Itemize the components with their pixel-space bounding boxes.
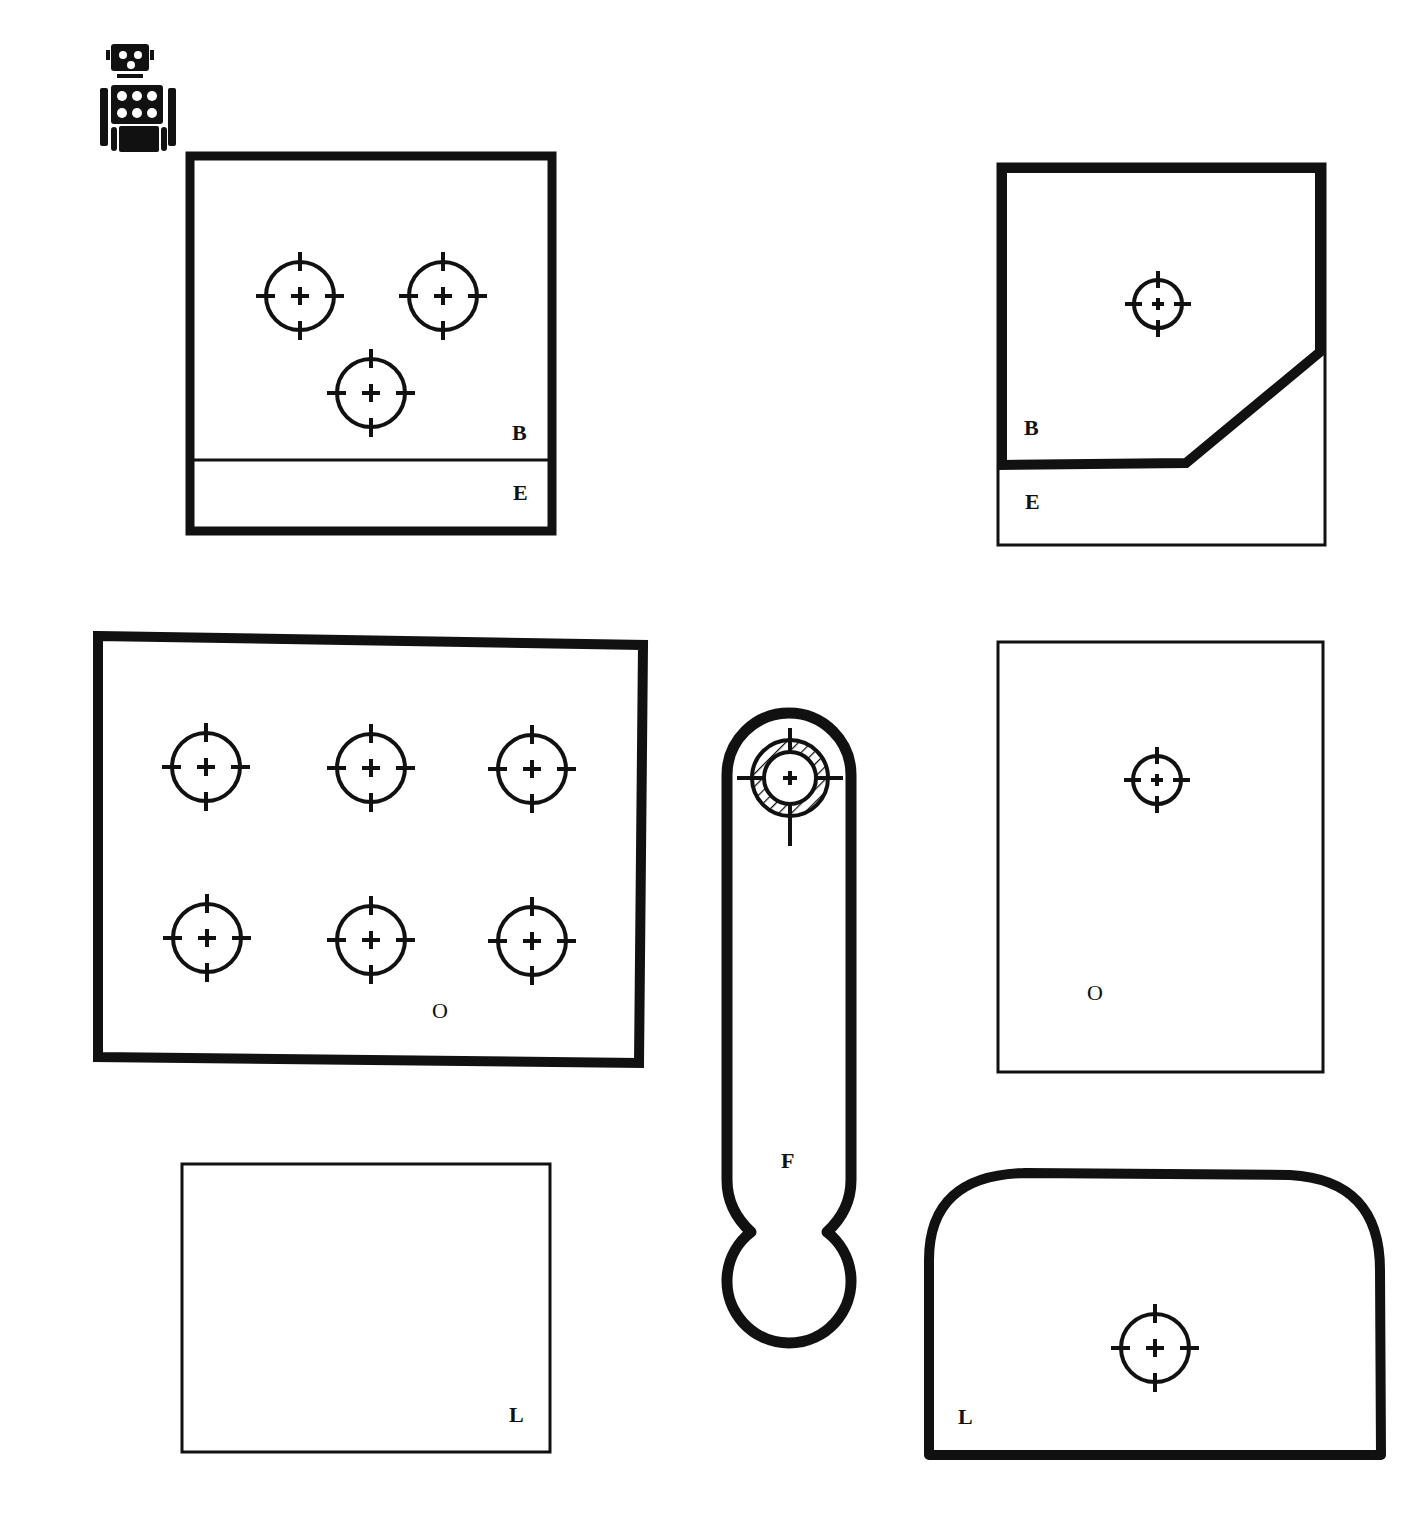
crosshair-icon — [488, 725, 576, 813]
crosshair-icon — [163, 894, 251, 982]
crosshair-icon — [1124, 747, 1190, 813]
part-label-l: L — [509, 1404, 524, 1426]
part-label-f: F — [781, 1150, 794, 1172]
crosshair-icon — [399, 252, 487, 340]
part-rounded-top-plate — [929, 1173, 1381, 1455]
drawing-canvas — [0, 0, 1418, 1527]
part-connecting-rod — [727, 713, 851, 1343]
part-label-b: B — [512, 422, 527, 444]
part-label-e: E — [1025, 491, 1040, 513]
crosshair-icon — [488, 897, 576, 985]
part-thin-rectangle — [182, 1164, 550, 1452]
part-label-e: E — [513, 482, 528, 504]
part-tall-plate — [998, 642, 1323, 1072]
part-chamfered-plate — [998, 164, 1325, 545]
crosshair-icon — [256, 252, 344, 340]
crosshair-icon — [327, 724, 415, 812]
crosshair-icon — [327, 349, 415, 437]
part-label-o: O — [1087, 982, 1103, 1004]
part-rectangular-plate — [98, 636, 643, 1063]
part-label-o: O — [432, 1000, 448, 1022]
part-label-b: B — [1024, 417, 1039, 439]
crosshair-icon — [1111, 1304, 1199, 1392]
part-square-plate — [190, 156, 552, 531]
robot-icon — [100, 44, 176, 152]
crosshair-icon — [162, 723, 250, 811]
crosshair-icon — [327, 896, 415, 984]
part-label-l: L — [958, 1406, 973, 1428]
